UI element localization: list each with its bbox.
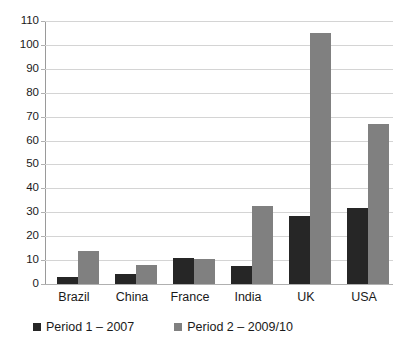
x-axis-label-india: India xyxy=(219,289,277,305)
y-tick-mark-110 xyxy=(41,21,45,22)
x-axis-category-labels: BrazilChinaFranceIndiaUKUSA xyxy=(45,289,393,309)
legend-label-2: Period 2 – 2009/10 xyxy=(187,320,293,334)
legend-entry-2[interactable]: Period 2 – 2009/10 xyxy=(174,320,293,334)
legend-swatch-icon-1 xyxy=(33,323,41,331)
bar-china-series-1 xyxy=(115,274,136,284)
bar-group-uk xyxy=(289,21,331,284)
x-axis-label-usa: USA xyxy=(335,289,393,305)
x-axis-label-uk: UK xyxy=(277,289,335,305)
y-tick-mark-40 xyxy=(41,188,45,189)
y-tick-label-50: 50 xyxy=(3,158,39,170)
bar-india-series-1 xyxy=(231,266,252,284)
y-tick-mark-10 xyxy=(41,260,45,261)
y-tick-label-10: 10 xyxy=(3,254,39,266)
bar-france-series-1 xyxy=(173,258,194,284)
bar-group-usa xyxy=(347,21,389,284)
bar-group-france xyxy=(173,21,215,284)
bar-brazil-series-1 xyxy=(57,277,78,284)
bar-usa-series-2 xyxy=(368,124,389,284)
legend-swatch-icon-2 xyxy=(174,323,182,331)
y-tick-mark-30 xyxy=(41,212,45,213)
bar-group-china xyxy=(115,21,157,284)
y-tick-label-60: 60 xyxy=(3,135,39,147)
y-tick-label-30: 30 xyxy=(3,206,39,218)
y-tick-label-90: 90 xyxy=(3,63,39,75)
x-axis-label-brazil: Brazil xyxy=(45,289,103,305)
x-axis-label-china: China xyxy=(103,289,161,305)
legend-entry-1[interactable]: Period 1 – 2007 xyxy=(33,320,134,334)
bar-brazil-series-2 xyxy=(78,251,99,284)
bar-group-brazil xyxy=(57,21,99,284)
plot-area xyxy=(45,21,393,284)
y-tick-mark-80 xyxy=(41,93,45,94)
y-tick-label-20: 20 xyxy=(3,230,39,242)
y-tick-label-0: 0 xyxy=(3,278,39,290)
y-tick-mark-70 xyxy=(41,117,45,118)
bar-china-series-2 xyxy=(136,265,157,284)
bar-group-india xyxy=(231,21,273,284)
gridline-0 xyxy=(45,284,393,285)
y-tick-mark-20 xyxy=(41,236,45,237)
y-tick-label-80: 80 xyxy=(3,87,39,99)
y-tick-mark-0 xyxy=(41,284,45,285)
bar-uk-series-1 xyxy=(289,216,310,284)
y-tick-label-110: 110 xyxy=(3,15,39,27)
bar-usa-series-1 xyxy=(347,208,368,285)
legend-label-1: Period 1 – 2007 xyxy=(46,320,134,334)
y-tick-label-70: 70 xyxy=(3,111,39,123)
y-axis-tick-labels: 0102030405060708090100110 xyxy=(0,0,39,349)
chart-legend: Period 1 – 2007Period 2 – 2009/10 xyxy=(33,318,293,336)
y-tick-label-100: 100 xyxy=(3,39,39,51)
y-tick-mark-60 xyxy=(41,141,45,142)
bar-uk-series-2 xyxy=(310,33,331,284)
y-tick-mark-90 xyxy=(41,69,45,70)
x-axis-label-france: France xyxy=(161,289,219,305)
bar-france-series-2 xyxy=(194,259,215,284)
bar-chart-figure: 0102030405060708090100110 BrazilChinaFra… xyxy=(0,0,404,349)
y-tick-label-40: 40 xyxy=(3,182,39,194)
y-tick-mark-50 xyxy=(41,164,45,165)
y-tick-mark-100 xyxy=(41,45,45,46)
bar-india-series-2 xyxy=(252,206,273,284)
